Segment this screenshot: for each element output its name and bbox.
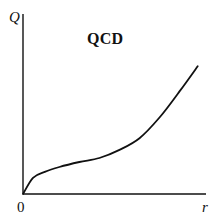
origin-label: 0 bbox=[17, 200, 25, 215]
qcd-chart: QCD Q r 0 bbox=[0, 0, 217, 218]
y-axis-label: Q bbox=[9, 10, 20, 25]
chart-title: QCD bbox=[87, 31, 123, 47]
x-axis-label: r bbox=[202, 200, 208, 215]
qcd-curve bbox=[23, 66, 198, 194]
